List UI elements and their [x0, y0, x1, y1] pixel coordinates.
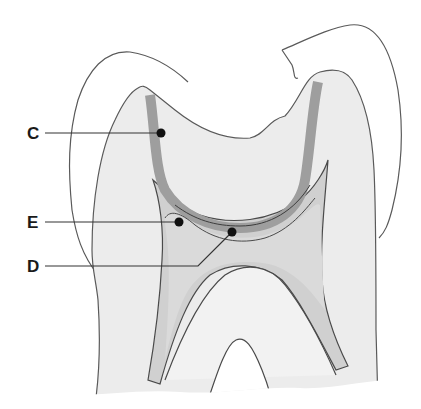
label-E: E: [27, 213, 38, 232]
marker-dot-E: [175, 218, 184, 227]
marker-dot-D: [228, 228, 237, 237]
marker-dot-C: [157, 129, 166, 138]
outer-shell-right-notch: [282, 50, 298, 78]
tooth-diagram: C E D: [0, 0, 421, 409]
label-D: D: [27, 257, 39, 276]
label-C: C: [27, 124, 39, 143]
